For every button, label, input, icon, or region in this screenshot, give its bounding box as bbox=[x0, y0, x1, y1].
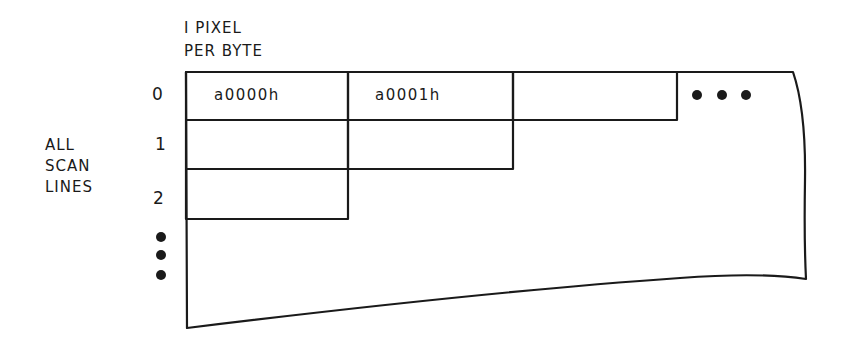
memory-page-outline bbox=[186, 72, 806, 328]
cell-address-a0001h: a0001h bbox=[375, 87, 441, 104]
row-label-2: 2 bbox=[153, 190, 165, 207]
ellipsis-dot-icon bbox=[156, 270, 166, 280]
header-label-line2: PER BYTE bbox=[184, 43, 263, 60]
header-label-line1: I PIXEL bbox=[184, 20, 242, 37]
ellipsis-dot-icon bbox=[692, 90, 702, 100]
memory-layout-diagram bbox=[0, 0, 846, 351]
cell-address-a0000h: a0000h bbox=[214, 87, 280, 104]
ellipsis-dot-icon bbox=[741, 90, 751, 100]
side-label-line3: LINES bbox=[45, 179, 93, 196]
ellipsis-dot-icon bbox=[156, 232, 166, 242]
cell-row0-col2 bbox=[513, 72, 677, 120]
cell-row1-col0 bbox=[186, 120, 348, 169]
cell-row2-col0 bbox=[186, 169, 348, 219]
row-label-1: 1 bbox=[155, 136, 167, 153]
ellipsis-dot-icon bbox=[717, 90, 727, 100]
cell-row1-col1 bbox=[348, 120, 513, 169]
side-label-line2: SCAN bbox=[45, 158, 90, 175]
row-label-0: 0 bbox=[152, 86, 164, 103]
side-label-line1: ALL bbox=[45, 137, 75, 154]
ellipsis-dot-icon bbox=[156, 250, 166, 260]
